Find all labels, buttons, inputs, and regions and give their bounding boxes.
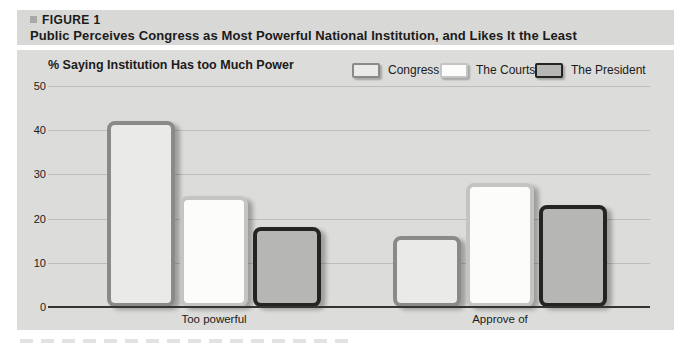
- y-tick-label-40: 40: [20, 125, 46, 136]
- legend-swatch-the-president: [535, 63, 563, 78]
- x-axis-line: [48, 306, 650, 308]
- y-tick-label-50: 50: [20, 81, 46, 92]
- bar-congress-approve-of: [393, 236, 461, 307]
- legend-swatch-congress: [352, 63, 380, 78]
- bar-the-courts-too-powerful: [180, 196, 248, 307]
- bar-congress-too-powerful: [107, 121, 175, 307]
- bar-the-courts-approve-of: [466, 183, 534, 307]
- legend-label-the-president: The President: [571, 63, 646, 77]
- y-axis-title: % Saying Institution Has too Much Power: [48, 58, 294, 72]
- y-tick-label-30: 30: [20, 169, 46, 180]
- figure-bullet-icon: [30, 16, 37, 23]
- figure-label-row: FIGURE 1: [30, 13, 674, 26]
- figure-label: FIGURE 1: [42, 13, 101, 27]
- y-tick-label-20: 20: [20, 214, 46, 225]
- figure-title: Public Perceives Congress as Most Powerf…: [30, 28, 674, 43]
- cropped-source-text-line: [20, 339, 350, 343]
- figure-header: FIGURE 1 Public Perceives Congress as Mo…: [17, 10, 674, 45]
- bar-the-president-approve-of: [539, 205, 607, 307]
- legend-label-the-courts: The Courts: [476, 63, 535, 77]
- chart-panel: % Saying Institution Has too Much Power …: [17, 50, 674, 330]
- legend-item-the-president: The President: [535, 62, 646, 78]
- figure-page: FIGURE 1 Public Perceives Congress as Mo…: [0, 0, 683, 345]
- gridline-50: [48, 86, 650, 87]
- legend-swatch-the-courts: [440, 63, 468, 78]
- y-tick-label-0: 0: [20, 302, 46, 313]
- legend-item-congress: Congress: [352, 62, 439, 78]
- bar-the-president-too-powerful: [253, 227, 321, 307]
- category-label-approve-of: Approve of: [420, 313, 580, 325]
- legend-item-the-courts: The Courts: [440, 62, 535, 78]
- legend-label-congress: Congress: [388, 63, 439, 77]
- y-tick-label-10: 10: [20, 258, 46, 269]
- category-label-too-powerful: Too powerful: [134, 313, 294, 325]
